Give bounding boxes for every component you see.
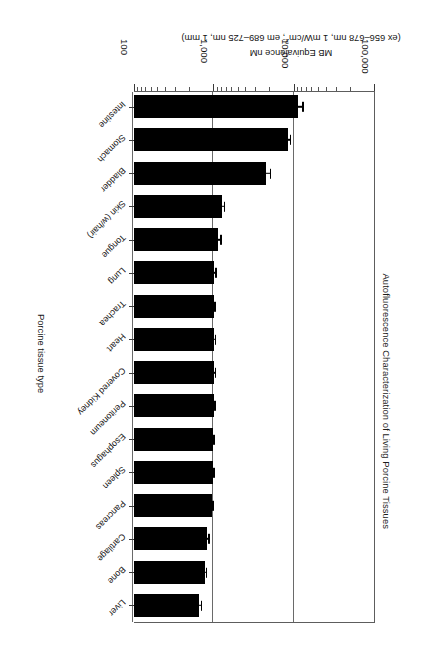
- minor-tick: [312, 87, 313, 91]
- bar-intestine: [134, 95, 298, 118]
- major-tick: [134, 84, 135, 91]
- minor-tick: [336, 87, 337, 91]
- minor-tick: [145, 87, 146, 91]
- category-tick: [129, 273, 134, 274]
- minor-tick: [137, 87, 138, 91]
- error-bar: [212, 339, 216, 341]
- bar-covered-kidney: [134, 361, 214, 384]
- bar-liver: [134, 594, 199, 617]
- minor-tick: [306, 87, 307, 91]
- bar-spleen: [134, 461, 213, 484]
- error-bar: [284, 139, 292, 141]
- category-label-heart: Heart: [105, 332, 127, 354]
- chart-title: Autofluorescence Characterization of Liv…: [381, 274, 392, 524]
- minor-tick: [318, 87, 319, 91]
- category-tick: [129, 240, 134, 241]
- bar-bone: [134, 561, 205, 584]
- category-tick: [129, 506, 134, 507]
- category-label-bone: Bone: [106, 565, 128, 587]
- bar-skin-w-hair: [134, 195, 222, 218]
- error-bar: [202, 571, 208, 573]
- minor-tick: [326, 87, 327, 91]
- minor-tick: [231, 87, 232, 91]
- category-tick: [129, 406, 134, 407]
- minor-tick: [238, 87, 239, 91]
- plot-area: [134, 91, 375, 623]
- value-axis-title: MB Equivalence nM (ex 656–678 nm, 1 mW/c…: [141, 31, 427, 59]
- bar-pancreas: [134, 494, 212, 517]
- category-tick: [129, 107, 134, 108]
- error-bar: [260, 172, 271, 174]
- category-label-trachea: Trachea: [98, 299, 128, 329]
- category-label-liver: Liver: [107, 598, 128, 619]
- major-tick: [374, 84, 375, 91]
- minor-tick: [175, 87, 176, 91]
- minor-tick: [226, 87, 227, 91]
- chart-figure: Autofluorescence Characterization of Liv…: [0, 0, 427, 659]
- error-bar: [211, 438, 215, 440]
- error-bar: [209, 505, 214, 507]
- category-tick: [129, 339, 134, 340]
- category-label-bladder: Bladder: [99, 166, 128, 195]
- category-label-spleen: Spleen: [101, 465, 128, 492]
- value-axis-title-line1: MB Equivalence nM: [250, 48, 333, 58]
- category-axis-title: Porcine tissue type: [36, 284, 47, 424]
- category-tick: [129, 472, 134, 473]
- bar-lung: [134, 261, 214, 284]
- error-bar: [205, 538, 210, 540]
- minor-tick: [217, 87, 218, 91]
- minor-tick: [297, 87, 298, 91]
- category-tick: [129, 539, 134, 540]
- category-label-tongue: Tongue: [100, 232, 128, 260]
- value-tick-label-100: 100: [119, 39, 130, 55]
- category-label-stomach: Stomach: [96, 132, 128, 164]
- category-label-cartilage: Cartilage: [95, 531, 127, 563]
- minor-tick: [301, 87, 302, 91]
- bar-bladder: [134, 162, 266, 185]
- category-tick: [129, 439, 134, 440]
- minor-tick: [141, 87, 142, 91]
- bar-esophagus: [134, 428, 213, 451]
- major-tick: [294, 84, 295, 91]
- error-bar: [211, 472, 215, 474]
- error-bar: [215, 239, 222, 241]
- bar-series: [134, 92, 374, 622]
- error-bar: [219, 206, 226, 208]
- minor-tick: [221, 87, 222, 91]
- bar-peritoneum: [134, 394, 214, 417]
- error-bar: [212, 272, 217, 274]
- bar-tongue: [134, 228, 218, 251]
- minor-tick: [255, 87, 256, 91]
- category-tick: [129, 373, 134, 374]
- value-axis-title-line2: (ex 656–678 nm, 1 mW/cm2; em 689–725 nm,…: [141, 31, 427, 47]
- category-tick: [129, 173, 134, 174]
- bar-trachea: [134, 295, 214, 318]
- minor-tick: [157, 87, 158, 91]
- bar-cartilage: [134, 527, 207, 550]
- error-bar: [212, 372, 216, 374]
- category-tick: [129, 572, 134, 573]
- minor-tick: [350, 87, 351, 91]
- category-label-pancreas: Pancreas: [94, 498, 128, 532]
- category-tick: [129, 605, 134, 606]
- category-tick: [129, 306, 134, 307]
- rotated-figure-container: Autofluorescence Characterization of Liv…: [0, 0, 427, 659]
- minor-tick: [151, 87, 152, 91]
- bar-heart: [134, 328, 214, 351]
- error-bar: [211, 405, 215, 407]
- category-tick: [129, 140, 134, 141]
- category-label-intestine: Intestine: [97, 99, 128, 130]
- major-tick: [213, 84, 214, 91]
- minor-tick: [189, 87, 190, 91]
- minor-tick: [269, 87, 270, 91]
- bar-stomach: [134, 128, 288, 151]
- category-tick: [129, 206, 134, 207]
- error-bar: [211, 305, 215, 307]
- minor-tick: [245, 87, 246, 91]
- category-label-lung: Lung: [106, 265, 127, 286]
- minor-tick: [165, 87, 166, 91]
- error-bar: [196, 605, 202, 607]
- error-bar: [291, 106, 303, 108]
